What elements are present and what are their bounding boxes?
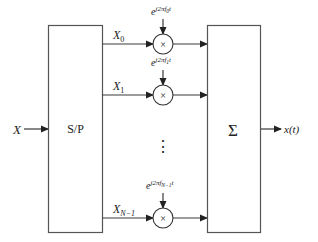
- sigma-icon: Σ: [228, 121, 238, 140]
- branch-1: X1 ej2πf1t ×: [102, 56, 207, 105]
- branch-1-exponential: ej2πf1t: [151, 56, 172, 68]
- multiply-icon: ×: [160, 39, 166, 50]
- ofdm-diagram: X S/P X0 ej2πf0t × X1 ej2πf1t × ⋮ XN−1 e…: [0, 0, 318, 242]
- branch-1-symbol: X1: [112, 79, 124, 95]
- output-signal: x(t): [261, 123, 300, 136]
- serial-to-parallel-block: S/P: [49, 26, 103, 233]
- ellipsis-icon: ⋮: [155, 138, 171, 155]
- branch-0-symbol: X0: [112, 28, 124, 44]
- branch-0: X0 ej2πf0t ×: [102, 5, 207, 54]
- branch-n-minus-1-symbol: XN−1: [112, 202, 135, 218]
- multiply-icon: ×: [160, 213, 166, 224]
- multiply-icon: ×: [160, 90, 166, 101]
- output-label: x(t): [283, 123, 300, 136]
- summation-block: Σ: [208, 26, 261, 233]
- branch-n-minus-1-exponential: ej2πfN−1t: [146, 179, 175, 191]
- branch-n-minus-1: XN−1 ej2πfN−1t ×: [102, 179, 207, 228]
- branch-0-exponential: ej2πf0t: [151, 5, 172, 17]
- sp-label: S/P: [67, 122, 84, 136]
- input-label: X: [12, 122, 22, 137]
- input-signal: X: [12, 122, 48, 137]
